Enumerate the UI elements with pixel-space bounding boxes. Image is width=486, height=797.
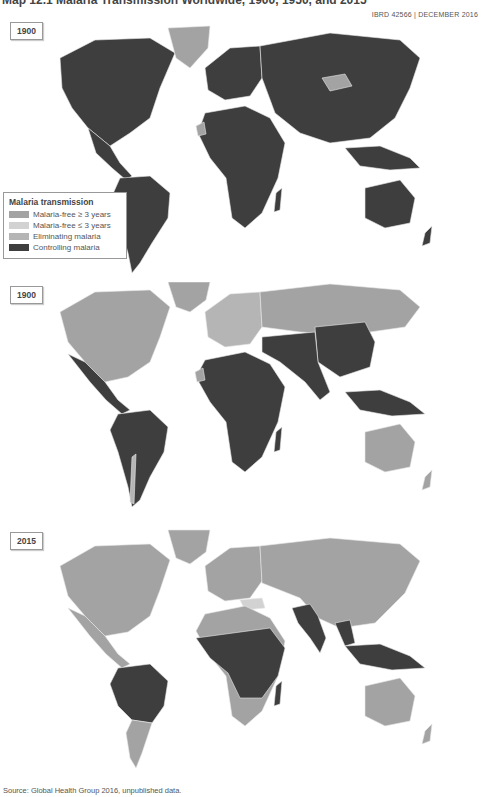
map-legend: Malaria transmission Malaria-free ≥ 3 ye…: [3, 192, 127, 259]
legend-swatch: [9, 233, 29, 240]
source-note: Source: Global Health Group 2016, unpubl…: [3, 786, 181, 795]
legend-item-free-3plus: Malaria-free ≥ 3 years: [9, 210, 121, 219]
legend-swatch: [9, 244, 29, 251]
year-label: 1900: [10, 22, 43, 40]
legend-item-controlling: Controlling malaria: [9, 243, 121, 252]
year-label: 1900: [10, 286, 43, 304]
year-label: 2015: [10, 532, 43, 550]
legend-swatch: [9, 222, 29, 229]
legend-title: Malaria transmission: [9, 197, 121, 207]
world-map-2015: [0, 528, 486, 783]
map-id-label: IBRD 42566 | DECEMBER 2016: [372, 11, 478, 18]
world-map-1950: [0, 282, 486, 522]
map-panel-1950: 1900: [0, 282, 486, 522]
legend-swatch: [9, 211, 29, 218]
map-panel-2015: 2015: [0, 528, 486, 783]
legend-item-free-recent: Malaria-free ≤ 3 years: [9, 221, 121, 230]
map-title: Map 12.1 Malaria Transmission Worldwide,…: [2, 0, 367, 7]
legend-item-eliminating: Eliminating malaria: [9, 232, 121, 241]
